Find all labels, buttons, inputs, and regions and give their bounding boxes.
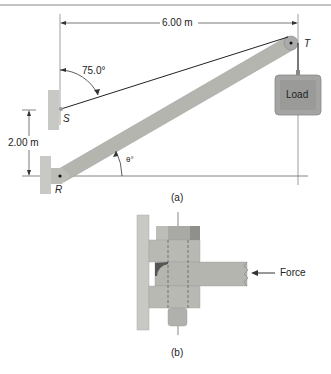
arrowhead-icon <box>60 21 66 25</box>
wall-r <box>40 156 51 194</box>
bolt-end <box>168 308 187 326</box>
arrowhead-icon <box>292 21 298 25</box>
cable-angle-label: 75.0° <box>82 65 105 76</box>
caption-b: (b) <box>171 347 183 358</box>
wall-plate <box>137 215 149 330</box>
arrowhead-icon <box>27 110 31 116</box>
arrowhead-icon <box>60 68 66 72</box>
boom <box>57 36 296 182</box>
wall-s <box>48 90 59 130</box>
dimension-6m-label: 6.00 m <box>162 17 193 28</box>
arrowhead-icon <box>27 170 31 176</box>
clevis-lower <box>149 286 200 308</box>
load-hook <box>296 70 300 75</box>
bolt-head-side <box>190 226 200 240</box>
pulley-center-icon <box>290 42 293 45</box>
anchor-s-icon <box>59 107 63 111</box>
caption-a: (a) <box>171 192 183 203</box>
dimension-2m-label: 2.00 m <box>8 137 39 148</box>
bolt-head-face <box>168 226 190 240</box>
load-label: Load <box>286 89 308 100</box>
theta-angle-label: θ° <box>126 155 134 164</box>
pivot-r-icon <box>58 174 61 177</box>
point-r-label: R <box>55 184 62 195</box>
arrowhead-icon <box>94 89 100 95</box>
bar <box>155 262 247 286</box>
force-label: Force <box>280 267 306 278</box>
diagram-canvas <box>0 0 331 374</box>
clevis-upper <box>149 240 200 262</box>
point-t-label: T <box>304 38 310 49</box>
point-s-label: S <box>63 113 70 124</box>
force-arrow-icon <box>251 270 258 276</box>
